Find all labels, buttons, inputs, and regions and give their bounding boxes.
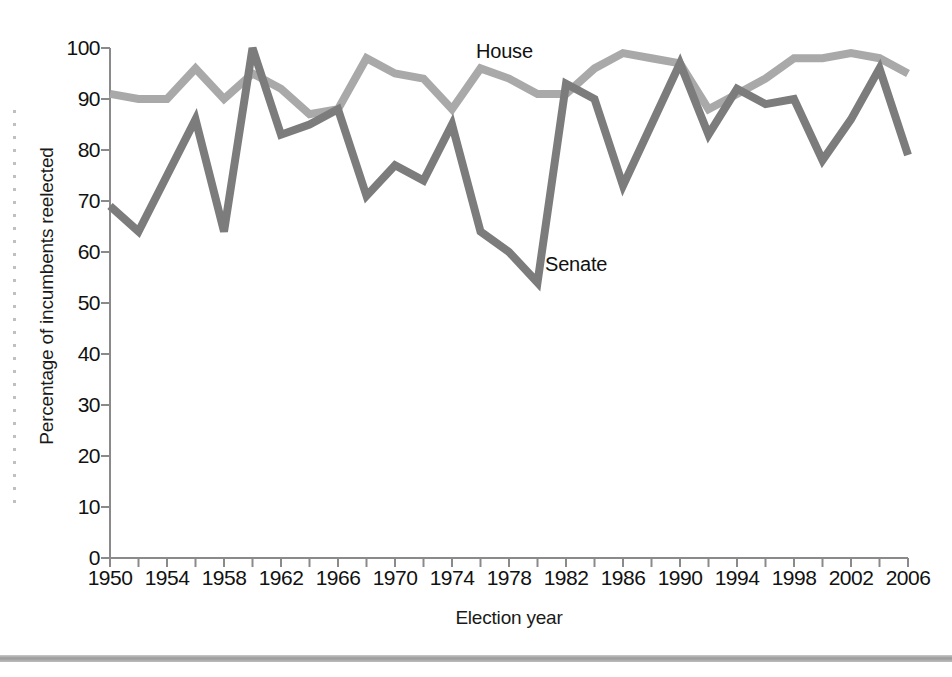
x-axis-tick-label: 1986	[601, 567, 646, 588]
x-axis-tick-label: 1958	[202, 567, 247, 588]
x-axis-tick-label: 1990	[658, 567, 703, 588]
x-axis-tick-label: 1966	[316, 567, 361, 588]
x-axis-tick-label: 1974	[430, 567, 475, 588]
data-series-group	[110, 48, 908, 283]
y-axis-tick-label: 90	[54, 88, 100, 109]
x-axis-tick-label: 2006	[886, 567, 931, 588]
y-axis-tick-label: 20	[54, 445, 100, 466]
x-axis-tick-label: 1970	[373, 567, 418, 588]
y-axis-tick-label: 80	[54, 139, 100, 160]
y-axis-tick-label: 0	[54, 547, 100, 568]
incumbent-reelection-chart: Percentage of incumbents reelected Elect…	[0, 0, 952, 677]
x-axis-tick-label: 2002	[829, 567, 874, 588]
x-axis-tick-label: 1950	[88, 567, 133, 588]
y-axis-tick-label: 70	[54, 190, 100, 211]
x-axis-tick-label: 1954	[145, 567, 190, 588]
y-axis-tick-label: 30	[54, 394, 100, 415]
axis-spines	[110, 48, 908, 558]
series-line-senate	[110, 48, 908, 283]
x-axis-tick-label: 1994	[715, 567, 760, 588]
x-axis-tick-label: 1998	[772, 567, 817, 588]
x-axis-tick-labels: 1950195419581962196619701974197819821986…	[0, 567, 952, 597]
series-label-senate: Senate	[545, 253, 607, 276]
x-axis-tick-label: 1982	[544, 567, 589, 588]
y-axis-tick-label: 100	[54, 37, 100, 58]
y-axis-tick-label: 40	[54, 343, 100, 364]
page-divider-rule	[0, 655, 952, 662]
series-label-house: House	[476, 40, 533, 63]
x-axis-tick-label: 1978	[487, 567, 532, 588]
y-axis-tick-label: 50	[54, 292, 100, 313]
y-axis-tick-label: 60	[54, 241, 100, 262]
scan-artifact-edge	[13, 110, 16, 510]
x-axis-tick-label: 1962	[259, 567, 304, 588]
y-axis-tick-marks	[101, 48, 110, 558]
x-axis-title: Election year	[110, 607, 908, 629]
y-axis-tick-label: 10	[54, 496, 100, 517]
